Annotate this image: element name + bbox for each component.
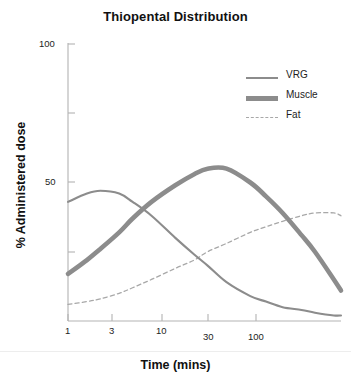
legend-swatch-muscle-icon bbox=[246, 96, 278, 101]
legend-swatch-fat-icon bbox=[246, 117, 278, 118]
y-tick-label-50: 50 bbox=[45, 176, 56, 187]
legend-item-fat: Fat bbox=[246, 108, 346, 128]
x-tick-label-30: 30 bbox=[203, 331, 214, 342]
x-tick-label-100: 100 bbox=[248, 331, 264, 342]
chart-figure: Thiopental Distribution % Administered d… bbox=[0, 0, 351, 383]
legend-swatch-vrg-icon bbox=[246, 77, 278, 79]
legend-label-muscle: Muscle bbox=[286, 89, 318, 100]
series-line-fat bbox=[68, 213, 341, 305]
legend-item-muscle: Muscle bbox=[246, 88, 346, 108]
footer-divider bbox=[0, 351, 351, 352]
plot-area bbox=[0, 0, 351, 383]
series-line-muscle bbox=[68, 167, 341, 290]
y-tick-label-100: 100 bbox=[39, 38, 55, 49]
x-tick-label-1: 1 bbox=[65, 325, 70, 336]
x-tick-label-3: 3 bbox=[109, 325, 114, 336]
legend-item-vrg: VRG bbox=[246, 68, 346, 88]
chart-legend: VRG Muscle Fat bbox=[246, 68, 346, 128]
legend-label-fat: Fat bbox=[286, 109, 300, 120]
legend-label-vrg: VRG bbox=[286, 69, 308, 80]
x-tick-label-10: 10 bbox=[156, 325, 167, 336]
